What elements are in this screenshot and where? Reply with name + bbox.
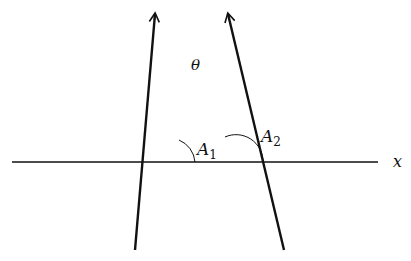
angle-arc-a1 xyxy=(179,140,195,162)
diagram-canvas: θ A1 A2 x xyxy=(0,0,411,261)
line-1 xyxy=(135,14,155,250)
a2-label: A2 xyxy=(259,126,281,149)
line-2 xyxy=(228,14,284,250)
x-axis-label: x xyxy=(393,152,402,171)
geometry-diagram: θ A1 A2 x xyxy=(0,0,411,261)
theta-label: θ xyxy=(191,56,200,74)
a1-label: A1 xyxy=(195,139,217,162)
